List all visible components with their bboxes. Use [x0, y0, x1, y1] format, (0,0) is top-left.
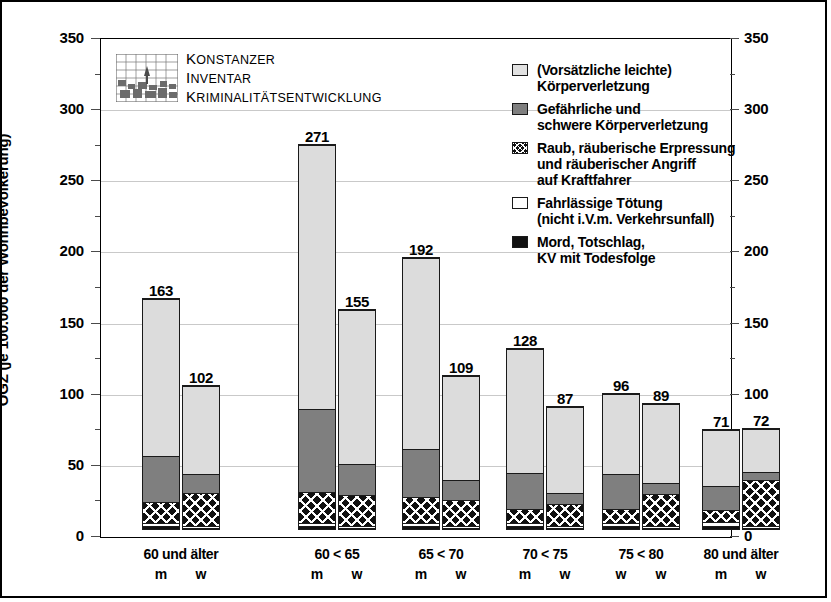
- x-axis-gender-label: m: [702, 566, 740, 582]
- axis-tick: [730, 536, 739, 537]
- y-tick-label-right: 100: [744, 385, 786, 402]
- legend: (Vorsätzliche leichte)KörperverletzungGe…: [512, 62, 812, 273]
- bar-segment: [299, 526, 335, 529]
- legend-label-line: Körperverletzung: [537, 78, 672, 94]
- bar-value-label: 163: [131, 282, 191, 299]
- bar-segment: [547, 528, 583, 529]
- legend-label-line: und räuberischer Angriff: [537, 156, 735, 172]
- y-axis-label: OGZ (je 100.000 der Wohnbevölkerung): [0, 120, 11, 420]
- white-swatch-icon: [512, 197, 528, 209]
- bar-segment: [743, 480, 779, 526]
- axis-tick: [730, 394, 739, 395]
- y-tick-label-left: 300: [42, 100, 84, 117]
- axis-minor-tick: [95, 358, 100, 359]
- bar-segment: [547, 407, 583, 492]
- legend-label: Gefährliche undschwere Körperverletzung: [537, 101, 708, 133]
- y-tick-label-right: 150: [744, 314, 786, 331]
- axis-tick: [730, 323, 739, 324]
- legend-item: Gefährliche undschwere Körperverletzung: [512, 101, 812, 133]
- bar-segment: [443, 376, 479, 480]
- bar-segment: [507, 526, 543, 529]
- y-tick-label-left: 100: [42, 385, 84, 402]
- logo-line-3: KRIMINALITÄTSENTWICKLUNG: [186, 88, 382, 107]
- black-swatch-icon: [512, 236, 528, 248]
- bar-segment: [507, 509, 543, 523]
- bar-segment: [603, 394, 639, 474]
- legend-label-line: (nicht i.V.m. Verkehrsunfall): [537, 211, 714, 227]
- bar-segment: [603, 474, 639, 509]
- legend-label-line: Mord, Totschlag,: [537, 234, 655, 250]
- bar-value-label: 87: [535, 390, 595, 407]
- bar-value-label: 109: [431, 359, 491, 376]
- x-axis-gender-label: m: [506, 566, 544, 582]
- y-tick-label-left: 50: [42, 456, 84, 473]
- bar-value-label: 192: [391, 241, 451, 258]
- bar-value-label: 271: [287, 128, 347, 145]
- legend-item: Fahrlässige Tötung(nicht i.V.m. Verkehrs…: [512, 195, 812, 227]
- bar-segment: [603, 526, 639, 529]
- bar-segment: [643, 483, 679, 494]
- legend-label: (Vorsätzliche leichte)Körperverletzung: [537, 62, 672, 94]
- axis-tick: [91, 180, 100, 181]
- bar: [442, 375, 480, 530]
- bar-segment: [643, 528, 679, 529]
- logo-wordmark: KONSTANZER INVENTAR KRIMINALITÄTSENTWICK…: [186, 50, 382, 107]
- bar-segment: [547, 504, 583, 526]
- bar-segment: [143, 526, 179, 529]
- axis-tick: [91, 465, 100, 466]
- bar-segment: [403, 526, 439, 529]
- chart-frame: OGZ (je 100.000 der Wohnbevölkerung) 005…: [0, 0, 827, 598]
- legend-item: (Vorsätzliche leichte)Körperverletzung: [512, 62, 812, 94]
- axis-tick: [91, 323, 100, 324]
- bar-segment: [183, 493, 219, 527]
- bar-segment: [643, 494, 679, 526]
- bar-segment: [183, 386, 219, 474]
- bar: [602, 393, 640, 530]
- bar-value-label: 72: [731, 412, 791, 429]
- legend-label-line: Gefährliche und: [537, 101, 708, 117]
- bar: [298, 144, 336, 530]
- bar-segment: [339, 310, 375, 464]
- bar-segment: [339, 464, 375, 495]
- x-axis-gender-label: w: [442, 566, 480, 582]
- bar-segment: [443, 528, 479, 529]
- x-axis-gender-label: w: [546, 566, 584, 582]
- konstanz-grid-logo-icon: [116, 54, 178, 102]
- axis-minor-tick: [730, 287, 735, 288]
- x-axis-group-label: 60 und älter: [116, 546, 246, 562]
- bar: [742, 428, 780, 530]
- bar: [642, 403, 680, 530]
- bar-segment: [703, 510, 739, 523]
- bar-segment: [547, 493, 583, 504]
- axis-tick: [91, 394, 100, 395]
- x-axis-gender-label: m: [402, 566, 440, 582]
- light-gray-swatch-icon: [512, 64, 528, 76]
- bar-segment: [443, 500, 479, 527]
- legend-label-line: Raub, räuberische Erpressung: [537, 140, 735, 156]
- axis-minor-tick: [95, 216, 100, 217]
- kik-logo: KONSTANZER INVENTAR KRIMINALITÄTSENTWICK…: [116, 48, 352, 108]
- legend-label-line: Fahrlässige Tötung: [537, 195, 714, 211]
- bar-segment: [743, 429, 779, 472]
- legend-item: Mord, Totschlag,KV mit Todesfolge: [512, 234, 812, 266]
- bar-segment: [743, 472, 779, 480]
- x-axis-gender-label: w: [602, 566, 640, 582]
- bar-segment: [299, 492, 335, 523]
- bar-value-label: 102: [171, 369, 231, 386]
- axis-tick: [91, 536, 100, 537]
- x-axis-gender-label: w: [182, 566, 220, 582]
- axis-tick: [91, 109, 100, 110]
- checkered-swatch-icon: [512, 142, 528, 154]
- x-axis-gender-label: m: [142, 566, 180, 582]
- bar-segment: [299, 145, 335, 408]
- axis-minor-tick: [95, 287, 100, 288]
- bar-segment: [703, 526, 739, 529]
- bar-segment: [403, 449, 439, 497]
- bar-segment: [339, 528, 375, 529]
- axis-minor-tick: [730, 358, 735, 359]
- bar-value-label: 155: [327, 293, 387, 310]
- bar: [338, 309, 376, 530]
- axis-minor-tick: [95, 145, 100, 146]
- legend-label: Mord, Totschlag,KV mit Todesfolge: [537, 234, 655, 266]
- logo-line-2: INVENTAR: [186, 69, 382, 88]
